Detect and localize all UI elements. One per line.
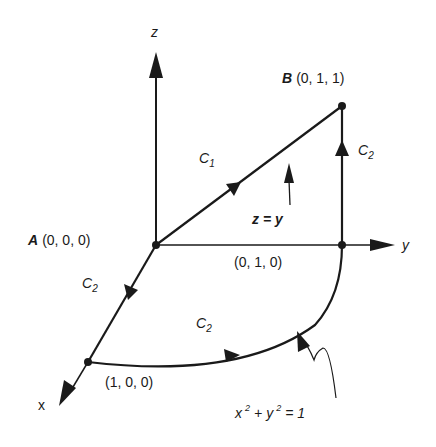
y-axis — [156, 239, 395, 251]
point-100 — [84, 358, 92, 366]
plane-annotation-arrow — [284, 163, 294, 205]
z-axis-arrowhead-icon — [149, 52, 163, 78]
circle-annotation-pointer — [297, 331, 336, 398]
point-010 — [338, 241, 346, 249]
z-axis — [149, 52, 163, 245]
x-axis-arrowhead-icon — [59, 380, 76, 406]
curve-c2-x-segment — [88, 245, 156, 362]
point-b-label: B(0, 1, 1) — [282, 70, 344, 86]
point-a — [152, 241, 160, 249]
c1-label: C1 — [199, 150, 215, 169]
curve-c1 — [156, 106, 342, 245]
point-a-label: A(0, 0, 0) — [27, 232, 90, 248]
point-010-label: (0, 1, 0) — [234, 254, 282, 270]
c1-direction-arrow-icon — [226, 182, 241, 196]
x-axis — [59, 362, 88, 406]
x-axis-label: x — [38, 397, 45, 413]
plane-pointer-arrow-icon — [284, 163, 294, 183]
z-axis-label: z — [150, 24, 158, 40]
point-100-label: (1, 0, 0) — [105, 374, 153, 390]
c2-arc-label: C2 — [196, 315, 212, 334]
circle-equation-label: x2+y2= 1 — [234, 403, 305, 421]
c2-vertical-label: C2 — [358, 142, 374, 161]
c2-vertical-direction-arrow-icon — [335, 140, 349, 156]
y-axis-arrowhead-icon — [370, 239, 395, 251]
y-axis-label: y — [401, 237, 410, 253]
point-b — [338, 102, 346, 110]
diagram-canvas: z y x C1 C2 C2 C2 A(0, 0, 0) B(0, 1, 1) … — [0, 0, 436, 447]
plane-equation-label: z = y — [251, 211, 284, 227]
circle-pointer-arrow-icon — [297, 331, 310, 352]
c2-x-label: C2 — [82, 275, 98, 294]
curve-c2-vertical-segment — [335, 106, 349, 245]
